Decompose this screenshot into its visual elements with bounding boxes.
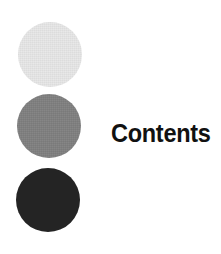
medium-gray-circle-icon xyxy=(17,94,81,158)
contents-page: Contents xyxy=(0,0,221,254)
light-gray-circle-icon xyxy=(18,22,82,87)
decorative-circle-stack xyxy=(0,0,100,254)
dark-circle-icon xyxy=(16,168,80,232)
page-title: Contents xyxy=(111,120,211,146)
